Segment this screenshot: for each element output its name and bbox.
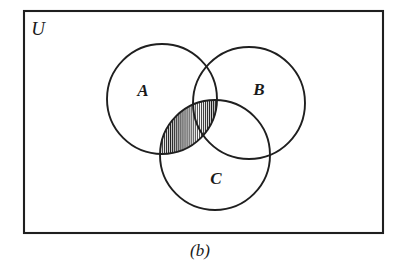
set-label-a: A bbox=[136, 81, 148, 100]
universe-label: U bbox=[31, 18, 46, 39]
venn-diagram-canvas: U A B C (b) bbox=[0, 0, 401, 274]
set-label-b: B bbox=[252, 80, 264, 99]
figure-caption: (b) bbox=[190, 241, 210, 260]
set-label-c: C bbox=[210, 169, 222, 188]
venn-figure: U A B C (b) bbox=[0, 0, 401, 274]
